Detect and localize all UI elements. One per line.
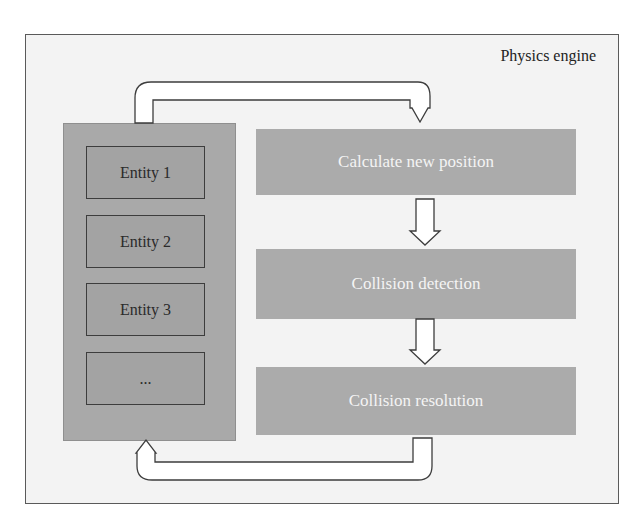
loop-arrow-bottom-icon xyxy=(136,438,432,480)
loop-arrow-top-icon xyxy=(135,82,430,123)
flow-arrows xyxy=(0,0,644,522)
down-arrow-2-icon xyxy=(410,319,440,364)
down-arrow-1-icon xyxy=(410,199,440,245)
